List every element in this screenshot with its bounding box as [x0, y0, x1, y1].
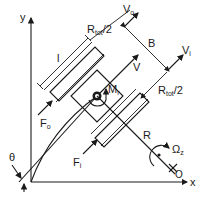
- inner-velocity-label: Vi: [182, 45, 191, 57]
- inner-force-arrow: [83, 140, 97, 154]
- track-spacing-dimension: [125, 27, 169, 71]
- tracked-vehicle-turning-diagram: y x l Rtot/2 Vo B Vi V Rtot/2 Mr Fo Fi R…: [0, 0, 208, 206]
- x-axis-label: x: [190, 177, 196, 188]
- inner-velocity-arrow: [168, 55, 183, 70]
- outer-half-width-label: Rtot/2: [87, 24, 112, 36]
- yaw-rate-label: Ωz: [172, 144, 184, 156]
- outer-velocity-label: Vo: [123, 4, 134, 16]
- track-spacing-label: B: [148, 38, 155, 49]
- turn-radius-line: [97, 96, 175, 174]
- outer-force-arrow: [38, 101, 52, 115]
- track-length-label: l: [57, 53, 59, 64]
- moment-label: Mr: [108, 84, 120, 96]
- turn-center-label: O: [175, 170, 183, 180]
- heading-angle-label: θ: [9, 152, 15, 163]
- inner-force-label: Fi: [73, 157, 81, 169]
- inner-half-width-label: Rtot/2: [158, 85, 183, 97]
- theta-arrow: [12, 165, 21, 178]
- vehicle-path-curve: [31, 96, 97, 182]
- y-axis-label: y: [20, 12, 26, 23]
- velocity-label: V: [133, 62, 140, 73]
- turn-radius-label: R: [143, 130, 151, 141]
- outer-force-label: Fo: [40, 118, 51, 130]
